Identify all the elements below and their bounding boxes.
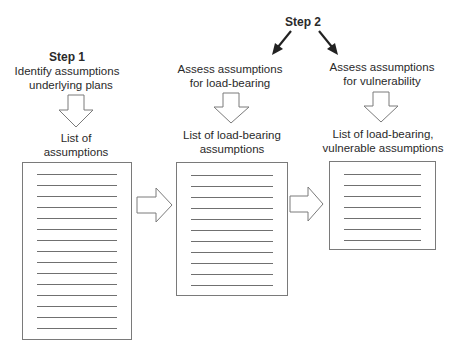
step1-title: Step 1: [49, 50, 85, 64]
branch-b-output-line2: vulnerable assumptions: [323, 141, 444, 155]
document-text-line: [37, 317, 117, 318]
document-text-line: [37, 218, 117, 219]
document-text-line: [37, 229, 117, 230]
document-text-line: [37, 273, 117, 274]
document-text-line: [344, 207, 421, 208]
down-arrow-icon: [364, 92, 398, 122]
step2-right-arrow-icon: [319, 31, 338, 55]
document-text-line: [191, 252, 273, 253]
assumptions-list-document: [22, 162, 132, 340]
document-text-line: [191, 263, 273, 264]
right-arrow-icon: [290, 187, 323, 221]
branch-a-output-line1: List of load-bearing: [183, 128, 281, 142]
step2-title: Step 2: [285, 15, 321, 29]
load-bearing-list-document: [176, 162, 288, 296]
document-text-line: [344, 218, 421, 219]
document-text-line: [191, 230, 273, 231]
document-text-line: [191, 285, 273, 286]
down-arrow-icon: [59, 95, 93, 127]
document-text-line: [191, 208, 273, 209]
document-text-line: [37, 185, 117, 186]
step1-action-line2: underlying plans: [29, 78, 113, 92]
document-text-line: [191, 274, 273, 275]
document-text-line: [344, 185, 421, 186]
document-text-line: [37, 295, 117, 296]
branch-a-output-line2: assumptions: [200, 142, 265, 156]
down-arrow-icon: [214, 93, 249, 123]
branch-a-action-line2: for load-bearing: [190, 76, 271, 90]
document-text-line: [37, 306, 117, 307]
document-text-line: [191, 197, 273, 198]
step2-left-arrow-icon: [272, 31, 291, 55]
branch-b-action-line1: Assess assumptions: [330, 60, 435, 74]
step1-output-line1: List of: [61, 131, 92, 145]
branch-b-output-line1: List of load-bearing,: [332, 127, 433, 141]
document-text-line: [37, 251, 117, 252]
vulnerable-list-document: [329, 161, 436, 250]
document-text-line: [191, 186, 273, 187]
document-text-line: [37, 174, 117, 175]
step1-output-line2: assumptions: [44, 145, 109, 159]
document-text-line: [37, 240, 117, 241]
branch-a-action-line1: Assess assumptions: [178, 62, 283, 76]
document-text-line: [37, 284, 117, 285]
right-arrow-icon: [137, 188, 172, 222]
document-text-line: [344, 196, 421, 197]
document-text-line: [37, 207, 117, 208]
document-text-line: [37, 262, 117, 263]
document-text-line: [191, 219, 273, 220]
document-text-line: [344, 229, 421, 230]
document-text-line: [344, 174, 421, 175]
branch-b-action-line2: for vulnerability: [343, 74, 420, 88]
document-text-line: [344, 240, 421, 241]
document-text-line: [37, 196, 117, 197]
document-text-line: [37, 328, 117, 329]
step1-action-line1: Identify assumptions: [15, 64, 120, 78]
document-text-line: [191, 175, 273, 176]
document-text-line: [191, 241, 273, 242]
